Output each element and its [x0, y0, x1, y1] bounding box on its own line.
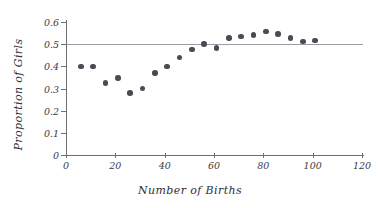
y-tick-label: 0.2	[44, 105, 59, 116]
y-tick-label: 0.5	[44, 39, 59, 50]
x-tick	[214, 153, 215, 158]
data-point	[275, 31, 281, 37]
data-point	[115, 75, 121, 81]
data-point	[152, 70, 158, 76]
plot-area	[66, 22, 362, 155]
y-tick-label: 0.1	[44, 127, 59, 138]
data-point	[263, 29, 269, 35]
data-point	[288, 35, 294, 41]
x-tick	[66, 153, 67, 158]
x-tick	[313, 153, 314, 158]
data-point	[78, 64, 84, 70]
x-tick-label: 60	[208, 160, 220, 171]
x-tick	[263, 153, 264, 158]
x-tick	[362, 153, 363, 158]
x-axis-line	[66, 155, 364, 156]
data-point	[127, 90, 133, 96]
x-tick	[165, 153, 166, 158]
x-tick-label: 120	[353, 160, 371, 171]
x-tick-label: 40	[159, 160, 171, 171]
x-tick-label: 0	[63, 160, 69, 171]
x-tick-label: 100	[304, 160, 322, 171]
y-tick	[61, 66, 67, 67]
y-tick	[61, 44, 67, 45]
data-point	[300, 39, 306, 45]
x-axis-title: Number of Births	[0, 184, 380, 197]
y-tick	[61, 22, 67, 23]
x-tick-label: 20	[109, 160, 121, 171]
y-tick	[61, 89, 67, 90]
data-point	[201, 41, 207, 47]
scatter-chart-figure: 00.10.20.30.40.50.6 020406080100120 Prop…	[0, 0, 380, 208]
x-tick	[115, 153, 116, 158]
y-tick	[61, 133, 67, 134]
data-point	[189, 47, 195, 53]
y-tick-label: 0.6	[44, 17, 59, 28]
data-point	[103, 80, 109, 86]
data-point	[226, 35, 232, 41]
y-tick-label: 0	[53, 150, 59, 161]
data-point	[251, 32, 257, 38]
y-axis-title: Proportion of Girls	[12, 35, 25, 155]
y-tick	[61, 111, 67, 112]
y-tick-label: 0.3	[44, 83, 59, 94]
data-point	[90, 64, 96, 70]
y-tick-label: 0.4	[44, 61, 59, 72]
x-tick-label: 80	[257, 160, 269, 171]
